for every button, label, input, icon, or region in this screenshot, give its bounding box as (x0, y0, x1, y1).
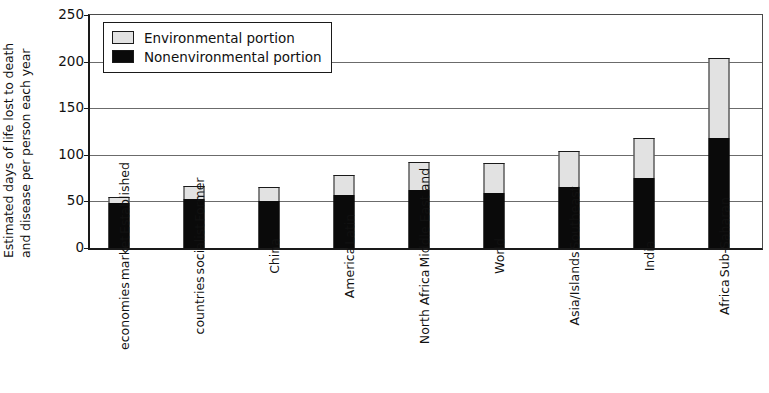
y-axis-tick-mark (84, 201, 90, 202)
y-axis-tick-label: 100 (50, 146, 84, 162)
y-axis-tick-mark (84, 155, 90, 156)
gridline (90, 155, 762, 156)
y-axis-title: Estimated days of life lost to death and… (0, 0, 46, 262)
y-axis-tick-labels: 050100150200250 (46, 0, 84, 393)
x-axis-category-label-line: Established (118, 161, 133, 235)
x-axis-category-label-line: socialist (193, 223, 208, 276)
x-axis-category-label-line: North Africa (418, 269, 433, 346)
x-axis-category-label: China (247, 256, 287, 271)
legend-swatch-nonenvironmental (112, 50, 134, 63)
x-axis-category-label: Formersocialistcountries (172, 256, 212, 271)
x-axis-category-label-line: Latin (343, 213, 358, 246)
legend-label-nonenvironmental: Nonenvironmental portion (144, 49, 321, 65)
legend-item-environmental: Environmental portion (112, 28, 321, 47)
x-axis-category-label: SoutheastAsia/Islands (547, 256, 587, 271)
x-axis-category-label: India (622, 256, 662, 271)
x-axis-category-label-line: countries (193, 275, 208, 335)
x-axis-category-label-line: Sub-Saharan (718, 196, 733, 278)
x-axis-category-label: Middle East andNorth Africa (397, 256, 437, 271)
x-axis-category-label-line: economies (118, 281, 133, 351)
x-axis-category-label-line: Former (193, 177, 208, 223)
x-axis-category-label-line: India (643, 240, 658, 273)
y-axis-tick-label: 250 (50, 6, 84, 22)
x-axis-category-label-line: China (268, 237, 283, 275)
y-axis-tick-label: 150 (50, 99, 84, 115)
bar-segment-environmental (559, 151, 580, 187)
y-axis-tick-label: 200 (50, 53, 84, 69)
bar-segment-environmental (634, 138, 655, 178)
x-axis-category-label: Establishedmarketeconomies (97, 256, 137, 271)
y-axis-tick-label: 0 (50, 239, 84, 255)
x-axis-category-label-line: market (118, 235, 133, 281)
legend-label-environmental: Environmental portion (144, 30, 295, 46)
x-axis-category-label-line: World (493, 237, 508, 275)
chart-legend: Environmental portion Nonenvironmental p… (103, 22, 332, 73)
y-axis-tick-mark (84, 62, 90, 63)
legend-swatch-environmental (112, 31, 134, 44)
x-axis-category-label: Sub-SaharanAfrica (697, 256, 737, 271)
chart-figure: Estimated days of life lost to death and… (0, 0, 769, 393)
y-axis-title-line-2: and disease per person each year (18, 6, 33, 258)
y-axis-tick-mark (84, 248, 90, 249)
x-axis-category-label: LatinAmerica (322, 256, 362, 271)
x-axis-category-labels: EstablishedmarketeconomiesFormersocialis… (88, 252, 763, 393)
y-axis-tick-mark (84, 15, 90, 16)
y-axis-tick-label: 50 (50, 192, 84, 208)
bar-segment-environmental (709, 58, 730, 138)
x-axis-category-label-line: Middle East and (418, 167, 433, 269)
x-axis-category-label-line: Southeast (568, 185, 583, 250)
x-axis-category-label-line: Asia/Islands (568, 250, 583, 326)
x-axis-category-label-line: America (343, 246, 358, 300)
legend-item-nonenvironmental: Nonenvironmental portion (112, 47, 321, 66)
x-axis-category-label-line: Africa (718, 278, 733, 316)
y-axis-tick-mark (84, 108, 90, 109)
x-axis-category-label: World (472, 256, 512, 271)
y-axis-title-line-1: Estimated days of life lost to death (1, 6, 16, 258)
gridline (90, 108, 762, 109)
